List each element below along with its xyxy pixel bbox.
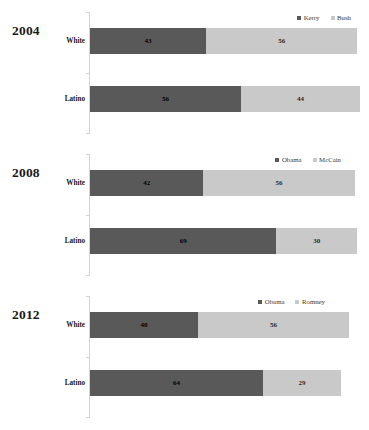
bar-row-label: Latino — [65, 370, 90, 396]
bar-row-label: Latino — [65, 86, 90, 112]
legend-swatch-icon — [275, 158, 279, 162]
bar-segment-Kerry: 43 — [90, 28, 206, 54]
bar-value-label: 42 — [143, 179, 150, 187]
axis-tick — [86, 73, 89, 74]
chart-year-label: 2004 — [12, 23, 40, 39]
bar-segment-Obama: 69 — [90, 228, 276, 254]
bar-segment-Obama: 40 — [90, 312, 198, 338]
bar-value-label: 56 — [270, 321, 277, 329]
legend-item-Obama[interactable]: Obama — [275, 157, 301, 164]
bar-segment-Obama: 42 — [90, 170, 203, 196]
bar-segment-Bush: 56 — [206, 28, 357, 54]
bar-row-label: White — [66, 28, 90, 54]
plot-area: ObamaMcCainWhite4256Latino6930 — [89, 154, 359, 276]
legend-item-Romney[interactable]: Romney — [295, 299, 325, 306]
bar-segment-McCain: 56 — [203, 170, 354, 196]
bar-row-White: White4256 — [90, 170, 355, 196]
bar-row-White: White4056 — [90, 312, 349, 338]
axis-tick — [86, 12, 89, 13]
legend-label: Romney — [302, 299, 325, 306]
legend-label: Bush — [337, 15, 351, 22]
chart-year-label: 2012 — [12, 307, 40, 323]
axis-tick — [86, 275, 89, 276]
bar-row-label: White — [66, 312, 90, 338]
legend-swatch-icon — [295, 300, 299, 304]
legend-label: Obama — [265, 299, 285, 306]
bar-value-label: 56 — [278, 37, 285, 45]
axis-tick — [86, 417, 89, 418]
bar-value-label: 44 — [297, 95, 304, 103]
chart-panel-2012: 2012ObamaRomneyWhite4056Latino6429 — [0, 286, 369, 428]
legend-label: Kerry — [304, 15, 320, 22]
legend-item-McCain[interactable]: McCain — [313, 157, 341, 164]
plot-area: KerryBushWhite4356Latino5644 — [89, 12, 359, 134]
bar-value-label: 29 — [298, 379, 305, 387]
axis-tick — [86, 357, 89, 358]
chart-legend: ObamaMcCain — [275, 154, 341, 167]
bar-value-label: 56 — [275, 179, 282, 187]
legend-label: Obama — [282, 157, 302, 164]
legend-item-Bush[interactable]: Bush — [331, 15, 351, 22]
legend-swatch-icon — [313, 158, 317, 162]
bar-value-label: 30 — [313, 237, 320, 245]
bar-value-label: 64 — [173, 379, 180, 387]
bar-value-label: 40 — [141, 321, 148, 329]
bar-segment-Bush: 44 — [241, 86, 360, 112]
bar-row-label: White — [66, 170, 90, 196]
chart-legend: ObamaRomney — [258, 296, 325, 309]
legend-item-Obama[interactable]: Obama — [258, 299, 284, 306]
bar-row-Latino: Latino6930 — [90, 228, 357, 254]
legend-label: McCain — [319, 157, 341, 164]
bar-value-label: 56 — [162, 95, 169, 103]
legend-swatch-icon — [331, 16, 335, 20]
chart-legend: KerryBush — [297, 12, 351, 25]
bar-segment-McCain: 30 — [276, 228, 357, 254]
legend-swatch-icon — [297, 16, 301, 20]
bar-row-White: White4356 — [90, 28, 357, 54]
axis-tick — [86, 296, 89, 297]
axis-tick — [86, 154, 89, 155]
axis-tick — [86, 215, 89, 216]
bar-segment-Kerry: 56 — [90, 86, 241, 112]
bar-value-label: 43 — [145, 37, 152, 45]
bar-row-Latino: Latino6429 — [90, 370, 341, 396]
bar-row-Latino: Latino5644 — [90, 86, 360, 112]
bar-segment-Romney: 56 — [198, 312, 349, 338]
bar-segment-Romney: 29 — [263, 370, 341, 396]
plot-area: ObamaRomneyWhite4056Latino6429 — [89, 296, 359, 418]
bar-value-label: 69 — [180, 237, 187, 245]
chart-year-label: 2008 — [12, 165, 40, 181]
bar-row-label: Latino — [65, 228, 90, 254]
chart-panel-2004: 2004KerryBushWhite4356Latino5644 — [0, 2, 369, 144]
legend-swatch-icon — [258, 300, 262, 304]
bar-segment-Obama: 64 — [90, 370, 263, 396]
legend-item-Kerry[interactable]: Kerry — [297, 15, 319, 22]
axis-tick — [86, 133, 89, 134]
chart-panel-2008: 2008ObamaMcCainWhite4256Latino6930 — [0, 144, 369, 286]
